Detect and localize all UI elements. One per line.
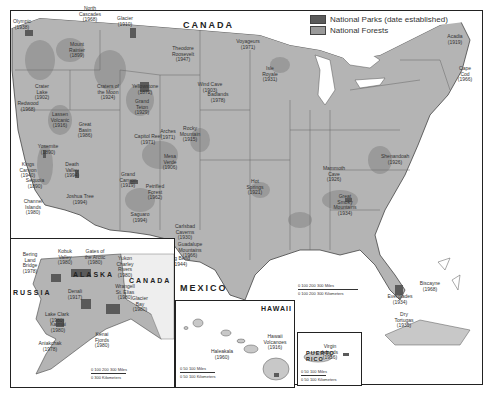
park-label: Voyageurs (1971) bbox=[234, 39, 262, 50]
park-label: Biscayne (1968) bbox=[416, 281, 444, 292]
scale-miles: 0 50 100 Miles bbox=[180, 366, 216, 371]
park-label: Olympic (1938) bbox=[8, 19, 36, 30]
scale-miles: 0 100 200 300 Miles bbox=[91, 367, 127, 372]
park-label: Redwood (1968) bbox=[14, 101, 42, 112]
park-label: Virgin Islands (1956) bbox=[316, 344, 344, 361]
park-label: Isle Royale (1931) bbox=[256, 66, 284, 83]
park-label: Everglades (1934) bbox=[386, 294, 414, 305]
park-label: Sequoia (1890) bbox=[21, 178, 49, 189]
park-label: Death Valley (1994) bbox=[58, 162, 86, 179]
legend-national-forests: National Forests bbox=[310, 26, 448, 35]
park-label: Yukon Charley Rivers (1980) bbox=[111, 256, 139, 278]
scale-bar-alaska: 0 100 200 300 Miles 0 300 Kilometers bbox=[91, 367, 127, 380]
park-label: Lassen Volcanic (1916) bbox=[46, 112, 74, 129]
legend-label-parks: National Parks (date established) bbox=[330, 15, 448, 24]
park-label: Mount Rainier (1899) bbox=[63, 42, 91, 59]
map-legend: National Parks (date established) Nation… bbox=[310, 15, 448, 37]
park-label: Yosemite (1890) bbox=[34, 144, 62, 155]
park-label: Glacier (1910) bbox=[111, 16, 139, 27]
park-label: Dry Tortugas (1935) bbox=[390, 312, 418, 329]
park-label: Bering Land Bridge (1978) bbox=[16, 252, 44, 274]
scale-miles: 0 100 200 300 Miles bbox=[298, 283, 358, 288]
park-label: Grand Canyon (1919) bbox=[114, 172, 142, 189]
park-label: Crater Lake (1902) bbox=[28, 84, 56, 101]
park-label: Haleakala (1960) bbox=[208, 349, 236, 360]
scale-bar-main: 0 100 200 300 Miles 0 100 200 300 Kilome… bbox=[298, 283, 358, 296]
park-label: Badlands (1978) bbox=[204, 92, 232, 103]
park-label: Theodore Roosevelt (1947) bbox=[169, 46, 197, 63]
scale-bar-pr: 0 50 100 Miles 0 50 100 Kilometers bbox=[301, 369, 337, 382]
park-label: Mesa Verde (1906) bbox=[156, 154, 184, 171]
park-label: North Cascades (1968) bbox=[76, 6, 104, 23]
label-russia: RUSSIA bbox=[13, 289, 51, 296]
scale-km: 0 100 200 300 Kilometers bbox=[298, 291, 358, 296]
park-label: Mammoth Cave (1926) bbox=[320, 166, 348, 183]
legend-swatch-parks bbox=[310, 15, 326, 24]
park-label: Yellowstone (1872) bbox=[131, 84, 159, 95]
park-label: Great Smoky Mountains (1934) bbox=[331, 194, 359, 216]
park-label: Acadia (1919) bbox=[441, 34, 469, 45]
scale-km: 0 50 100 Kilometers bbox=[180, 374, 216, 379]
park-label: Carlsbad Caverns (1930) bbox=[171, 224, 199, 241]
park-label: Cape Cod (1966) bbox=[451, 66, 479, 83]
label-canada-inset: CANADA bbox=[129, 277, 171, 284]
scale-bar-hawaii: 0 50 100 Miles 0 50 100 Kilometers bbox=[180, 366, 216, 379]
legend-label-forests: National Forests bbox=[330, 26, 388, 35]
park-label: Rocky Mountain (1915) bbox=[176, 126, 204, 143]
park-label: Gates of the Arctic (1980) bbox=[81, 249, 109, 266]
park-label: Hawaii Volcanoes (1916) bbox=[261, 334, 289, 351]
park-label: Kenai Fjords (1980) bbox=[88, 332, 116, 349]
scale-km: 0 50 100 Kilometers bbox=[301, 377, 337, 382]
park-label: Great Basin (1986) bbox=[71, 122, 99, 139]
park-label: Petrified Forest (1962) bbox=[141, 184, 169, 201]
label-alaska: ALASKA bbox=[73, 271, 114, 278]
park-label: Denali (1917) bbox=[61, 289, 89, 300]
park-label: Craters of the Moon (1924) bbox=[94, 84, 122, 101]
park-label: Aniakchak (1978) bbox=[36, 341, 64, 352]
legend-swatch-forests bbox=[310, 26, 326, 35]
park-label: Katmai (1980) bbox=[44, 322, 72, 333]
label-canada: CANADA bbox=[183, 20, 234, 30]
park-label: Shenandoah (1926) bbox=[381, 154, 409, 165]
label-hawaii: HAWAII bbox=[261, 305, 292, 312]
scale-miles: 0 50 100 Miles bbox=[301, 369, 337, 374]
park-label: Grand Teton (1929) bbox=[128, 99, 156, 116]
park-label: Hot Springs (1921) bbox=[241, 179, 269, 196]
legend-national-parks: National Parks (date established) bbox=[310, 15, 448, 24]
park-label: Kobuk Valley (1980) bbox=[51, 249, 79, 266]
park-label: Joshua Tree (1994) bbox=[66, 194, 94, 205]
park-label: Glacier Bay (1980) bbox=[126, 296, 154, 313]
label-mexico: MEXICO bbox=[180, 283, 228, 293]
park-label: Saguaro (1994) bbox=[126, 212, 154, 223]
park-label: Channel Islands (1980) bbox=[19, 199, 47, 216]
scale-km: 0 300 Kilometers bbox=[91, 375, 127, 380]
